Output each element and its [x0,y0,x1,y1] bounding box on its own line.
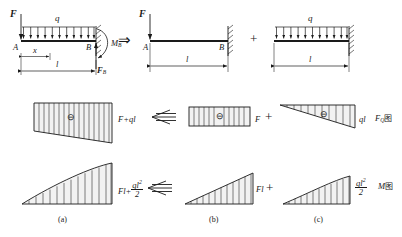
udl-moment-fraction: ql22 [355,178,367,197]
plus-sign-row2: + [265,110,272,123]
combined-moment-num-exponent: 2 [139,179,142,185]
combined-moment-num-base: ql [132,180,139,190]
label-node-B-middle: B [219,43,224,52]
label-combined-shear-value: F+ql [118,115,136,124]
label-udl-shear-value: ql [359,115,366,124]
label-udl-q-right: q [308,14,313,23]
caption-a: (a) [58,216,67,224]
label-udl-moment-value: ql22 [355,178,367,197]
wall-hatching-middle [228,25,233,54]
label-reaction-force-subscript: B [103,69,106,75]
label-force-moment-value: Fl [256,185,264,194]
label-point-load-F-left: F [10,9,17,19]
udl-arrows-right [277,27,348,39]
combined-moment-fraction: ql22 [131,180,143,199]
sign-marker-udl-shear: ⊖ [320,110,328,119]
label-node-A-left: A [13,43,18,52]
row2-udl-shear-shape [280,105,355,128]
label-combined-moment-value: Fl+ql22 [118,180,143,199]
combined-moment-prefix: Fl+ [118,186,131,196]
label-dimension-x: x [33,46,37,55]
moment-diagram-cjk: 图 [385,182,393,191]
sign-marker-combined-shear: ⊖ [67,113,75,122]
label-node-B-left: B [86,43,91,52]
label-node-A-middle: A [143,43,148,52]
row1-right-beam-sketch [274,25,354,72]
row3-force-moment-shape [185,173,253,204]
udl-moment-num-exponent: 2 [363,177,366,183]
row3-combined-moment-shape [22,163,112,204]
label-dimension-l-middle: l [186,55,188,64]
udl-moment-denominator: 2 [355,188,367,197]
shear-diagram-cjk: 图 [384,114,392,123]
caption-b: (b) [209,216,218,224]
row2-implies-left-arrow [152,110,176,124]
wall-hatching-right [349,25,354,54]
label-reaction-force-FB: FB [97,66,106,76]
row3-implies-left-arrow [148,181,172,195]
row2-combined-shear-shape [34,103,112,143]
row3-udl-moment-shape [283,176,350,204]
label-dimension-l-left: l [56,60,58,69]
caption-c: (c) [314,216,323,224]
udl-moment-num-base: ql [356,178,363,188]
implies-arrow-right: ⇒ [118,33,131,48]
label-moment-diagram-name: M图 [378,182,393,191]
label-shear-diagram-name: FQ图 [375,114,392,124]
udl-arrows-left [24,27,95,39]
label-force-shear-value: F [255,115,260,124]
sign-marker-force-shear: ⊖ [216,112,224,121]
combined-moment-denominator: 2 [131,190,143,199]
plus-sign-row1: + [250,32,257,45]
beam-diagram-figure [0,0,402,237]
label-udl-q-left: q [55,14,60,23]
label-dimension-l-right: l [309,55,311,64]
label-point-load-F-middle: F [139,9,146,19]
plus-sign-row3: + [266,181,273,194]
